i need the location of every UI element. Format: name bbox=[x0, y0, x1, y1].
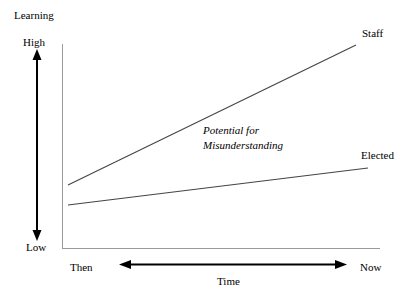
y-axis-low-label: Low bbox=[26, 241, 46, 253]
series-label-staff: Staff bbox=[362, 27, 383, 39]
series-label-elected: Elected bbox=[361, 149, 394, 161]
y-axis-high-label: High bbox=[23, 36, 45, 48]
annotation-potential-line-2: Misunderstanding bbox=[203, 139, 283, 151]
chart-canvas: Learning High Low Then Now Time Staff El… bbox=[0, 0, 414, 294]
time-axis-arrowhead-left bbox=[119, 260, 131, 269]
learning-axis-arrowhead-down bbox=[33, 230, 42, 241]
y-axis-title: Learning bbox=[14, 9, 54, 21]
x-axis-then-label: Then bbox=[70, 261, 93, 273]
x-axis-title: Time bbox=[217, 275, 240, 287]
series-line-staff bbox=[68, 45, 356, 185]
time-axis-arrowhead-right bbox=[335, 260, 347, 269]
annotation-potential-line-1: Potential for bbox=[203, 124, 259, 136]
series-line-elected bbox=[68, 168, 368, 205]
learning-axis-arrowhead-up bbox=[33, 49, 42, 60]
x-axis-now-label: Now bbox=[360, 261, 381, 273]
